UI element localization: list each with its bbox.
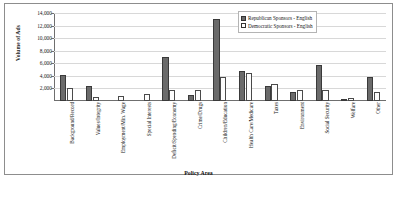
x-axis-category-labels: Background/RecordValues/IntegrityEmploym… [54, 102, 386, 168]
bar-democratic [246, 73, 252, 101]
x-axis-category-label: Deficit/Spending/Economy [171, 102, 177, 164]
bar-group [156, 13, 182, 101]
bar-group [335, 13, 361, 101]
x-axis-category-label: Crime/Drugs [197, 102, 203, 164]
bar-group [182, 13, 208, 101]
bar-republican [60, 75, 66, 101]
legend-swatch-democratic-icon [241, 23, 246, 28]
bar-chart-figure: Volume of Ads 2,0004,0006,0008,00010,000… [0, 0, 397, 202]
y-axis-tick-labels: 2,0004,0006,0008,00010,00012,00014,000 [22, 13, 52, 101]
x-axis-category-label: Health Care/Medicare [248, 102, 254, 164]
bar-democratic [220, 77, 226, 102]
bar-democratic [297, 90, 303, 101]
bar-republican [86, 86, 92, 101]
y-axis-tick-label: 2,000 [22, 85, 52, 91]
bar-group [105, 13, 131, 101]
legend-swatch-republican-icon [241, 16, 246, 21]
bar-democratic [67, 88, 73, 101]
bar-republican [213, 19, 219, 101]
bar-group [80, 13, 106, 101]
x-axis-category-label: Special Interests [146, 102, 152, 164]
x-axis-title: Policy Area [0, 170, 397, 176]
bar-democratic [169, 90, 175, 101]
bar-democratic [93, 97, 99, 101]
y-axis-tick-label: 4,000 [22, 73, 52, 79]
plot-area [54, 13, 386, 101]
legend-label-democratic: Democratic Sponsors - English [248, 23, 313, 29]
bar-republican [265, 86, 271, 101]
bar-republican [188, 95, 194, 101]
bar-group [360, 13, 386, 101]
x-axis-category-label: Values/Integrity [95, 102, 101, 164]
x-axis-category-label: Employment/Min. Wage [120, 102, 126, 164]
bar-republican [290, 92, 296, 101]
y-axis-tick-label: 6,000 [22, 60, 52, 66]
y-axis-tick-label: 10,000 [22, 35, 52, 41]
bar-republican [162, 57, 168, 101]
bar-republican [367, 77, 373, 102]
bar-democratic [322, 90, 328, 101]
bar-group [207, 13, 233, 101]
bar-democratic [374, 92, 380, 101]
bar-group [131, 13, 157, 101]
x-axis-category-label: Children/Education [222, 102, 228, 164]
y-axis-tick-label: 14,000 [22, 10, 52, 16]
y-axis-tick-label: 12,000 [22, 23, 52, 29]
bar-republican [341, 99, 347, 101]
bar-democratic [118, 96, 124, 101]
y-axis-tick-label: 8,000 [22, 48, 52, 54]
y-axis-title: Volume of Ads [15, 3, 21, 83]
bar-democratic [144, 94, 150, 101]
x-axis-category-label: Welfare [350, 102, 356, 164]
legend-item-republican: Republican Sponsors - English [241, 15, 313, 22]
bar-democratic [195, 90, 201, 101]
x-axis-category-label: Social Security [324, 102, 330, 164]
bar-republican [239, 71, 245, 101]
chart-legend: Republican Sponsors - English Democratic… [238, 11, 317, 33]
x-axis-category-label: Background/Record [69, 102, 75, 164]
x-axis-category-label: Other [375, 102, 381, 164]
bar-democratic [271, 84, 277, 101]
x-axis-category-label: Taxes [273, 102, 279, 164]
bar-democratic [348, 98, 354, 101]
bar-republican [316, 65, 322, 101]
legend-label-republican: Republican Sponsors - English [248, 15, 312, 21]
x-axis-category-label: Environment [299, 102, 305, 164]
legend-item-democratic: Democratic Sponsors - English [241, 22, 313, 29]
bar-group [54, 13, 80, 101]
